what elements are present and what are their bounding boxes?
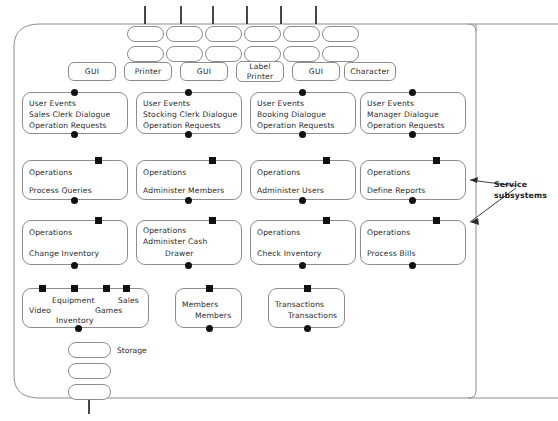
service-subsystem-process-bills[interactable]: Operations Process Bills	[360, 220, 466, 265]
annotation-arrowheads	[470, 177, 479, 225]
dialogue-line-2: Sales Clerk Dialogue	[29, 109, 110, 120]
storage-pill-3[interactable]	[68, 384, 111, 400]
dialogue-line-1: User Events	[257, 98, 304, 109]
required-interface-top-icon	[433, 217, 440, 224]
interface-pill-r1-3[interactable]	[205, 26, 242, 42]
service-line-1: Operations	[29, 167, 72, 178]
provided-interface-top-icon	[71, 89, 78, 96]
required-interface-top-icon-2	[71, 285, 78, 292]
storage-label: Storage	[117, 346, 147, 355]
provided-interface-bottom-icon	[304, 325, 311, 332]
interface-pill-r2-5[interactable]	[283, 46, 320, 62]
required-interface-top-icon	[209, 157, 216, 164]
service-line-1: Operations	[143, 225, 186, 236]
required-interface-top-icon-1	[39, 285, 46, 292]
entity-word-members-1: Members	[182, 299, 218, 310]
dialogue-line-3: Operation Requests	[367, 120, 445, 131]
entity-subsystem-members[interactable]: Members Members	[175, 288, 242, 328]
provided-interface-bottom-icon	[185, 197, 192, 204]
provided-interface-bottom-icon	[71, 131, 78, 138]
service-line-1: Operations	[257, 167, 300, 178]
device-pill-gui-2[interactable]: GUI	[180, 62, 228, 81]
service-subsystem-check-inventory[interactable]: Operations Check Inventory	[250, 220, 356, 265]
interface-pill-r2-1[interactable]	[127, 46, 164, 62]
external-connector-ticks	[145, 6, 316, 24]
provided-interface-bottom-icon	[299, 131, 306, 138]
interface-pill-r1-6[interactable]	[322, 26, 359, 42]
provided-interface-bottom-icon	[71, 197, 78, 204]
service-line-2: Define Reports	[367, 185, 425, 196]
interface-pill-r1-2[interactable]	[166, 26, 203, 42]
dialogue-line-3: Operation Requests	[29, 120, 107, 131]
dialogue-subsystem-sales-clerk[interactable]: User Events Sales Clerk Dialogue Operati…	[22, 92, 128, 134]
dialogue-subsystem-manager[interactable]: User Events Manager Dialogue Operation R…	[360, 92, 466, 134]
entity-word-games: Games	[95, 305, 122, 316]
frame-right-top-corner	[468, 24, 476, 31]
provided-interface-bottom-icon	[299, 197, 306, 204]
service-subsystem-process-queries[interactable]: Operations Process Queries	[22, 160, 128, 200]
required-interface-top-icon-3	[103, 285, 110, 292]
service-line-3: Drawer	[165, 248, 194, 259]
entity-word-video: Video	[29, 305, 51, 316]
provided-interface-bottom-icon	[75, 325, 82, 332]
entity-word-equipment: Equipment	[52, 295, 95, 306]
service-subsystem-define-reports[interactable]: Operations Define Reports	[360, 160, 466, 200]
service-subsystem-administer-users[interactable]: Operations Administer Users	[250, 160, 356, 200]
device-pill-character[interactable]: Character	[344, 62, 396, 81]
provided-interface-bottom-icon	[71, 262, 78, 269]
required-interface-top-icon	[206, 285, 213, 292]
provided-interface-top-icon	[409, 89, 416, 96]
frame-right-edge	[468, 24, 476, 398]
service-line-1: Operations	[143, 167, 186, 178]
entity-subsystem-inventory[interactable]: Equipment Sales Video Games Inventory	[22, 288, 149, 328]
required-interface-top-icon	[433, 157, 440, 164]
dialogue-line-3: Operation Requests	[257, 120, 335, 131]
device-pill-gui-3[interactable]: GUI	[292, 62, 340, 81]
service-line-2: Administer Cash	[143, 236, 207, 247]
interface-pill-r2-3[interactable]	[205, 46, 242, 62]
service-line-2: Check Inventory	[257, 248, 321, 259]
provided-interface-bottom-icon	[299, 262, 306, 269]
device-pill-label-printer[interactable]: Label Printer	[236, 61, 284, 82]
service-subsystem-administer-members[interactable]: Operations Administer Members	[136, 160, 242, 200]
entity-subsystem-transactions[interactable]: Transactions Transactions	[268, 288, 345, 328]
dialogue-subsystem-stocking-clerk[interactable]: User Events Stocking Clerk Dialogue Oper…	[136, 92, 242, 134]
provided-interface-bottom-icon	[409, 131, 416, 138]
interface-pill-r2-4[interactable]	[244, 46, 281, 62]
storage-pill-2[interactable]	[68, 363, 111, 379]
dialogue-line-1: User Events	[143, 98, 190, 109]
entity-word-transactions-1: Transactions	[275, 299, 324, 310]
required-interface-top-icon	[323, 157, 330, 164]
device-pill-printer[interactable]: Printer	[124, 62, 172, 81]
service-line-2: Administer Users	[257, 185, 324, 196]
interface-pill-r1-4[interactable]	[244, 26, 281, 42]
interface-pill-r2-6[interactable]	[322, 46, 359, 62]
service-subsystem-change-inventory[interactable]: Operations Change Inventory	[22, 220, 128, 265]
interface-pill-r1-5[interactable]	[283, 26, 320, 42]
provided-interface-bottom-icon	[409, 197, 416, 204]
provided-interface-bottom-icon	[185, 131, 192, 138]
storage-pill-1[interactable]	[68, 342, 111, 358]
provided-interface-top-icon	[185, 89, 192, 96]
service-subsystem-administer-cash-drawer[interactable]: Operations Administer Cash Drawer	[136, 220, 242, 265]
service-line-2: Administer Members	[143, 185, 224, 196]
entity-word-transactions-2: Transactions	[288, 310, 337, 321]
service-line-1: Operations	[367, 167, 410, 178]
service-line-2: Process Bills	[367, 248, 416, 259]
dialogue-line-2: Manager Dialogue	[367, 109, 439, 120]
provided-interface-bottom-icon	[206, 325, 213, 332]
entity-word-members-2: Members	[195, 310, 231, 321]
service-line-2: Change Inventory	[29, 248, 99, 259]
provided-interface-bottom-icon	[185, 262, 192, 269]
required-interface-top-icon	[95, 157, 102, 164]
annotation-service-subsystems: Service subsystems	[494, 180, 547, 201]
dialogue-subsystem-booking[interactable]: User Events Booking Dialogue Operation R…	[250, 92, 356, 134]
device-pill-gui-1[interactable]: GUI	[68, 62, 116, 81]
provided-interface-top-icon	[299, 89, 306, 96]
service-line-1: Operations	[367, 227, 410, 238]
service-line-1: Operations	[29, 227, 72, 238]
required-interface-top-icon	[95, 217, 102, 224]
interface-pill-r2-2[interactable]	[166, 46, 203, 62]
interface-pill-r1-1[interactable]	[127, 26, 164, 42]
entity-word-inventory: Inventory	[56, 315, 94, 326]
